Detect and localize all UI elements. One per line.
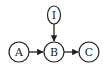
node-i: I bbox=[48, 6, 61, 24]
node-b: B bbox=[44, 42, 64, 62]
node-a-label: A bbox=[14, 46, 24, 59]
node-b-label: B bbox=[50, 46, 58, 59]
node-c: C bbox=[79, 42, 99, 62]
causal-diagram: I A B C bbox=[0, 0, 107, 69]
node-a: A bbox=[9, 42, 29, 62]
node-c-label: C bbox=[85, 46, 93, 59]
node-i-label: I bbox=[52, 9, 56, 22]
